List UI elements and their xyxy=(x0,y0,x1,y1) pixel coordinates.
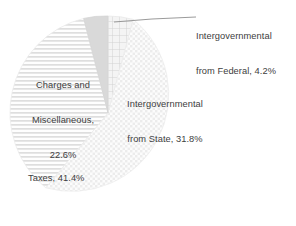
pie-label-state-line1: Intergovernmental xyxy=(118,99,212,111)
pie-label-taxes-line1: Taxes, 41.4% xyxy=(28,173,84,185)
pie-label-federal-line1: Intergovernmental xyxy=(196,31,276,43)
pie-label-state-line2: from State, 31.8% xyxy=(118,134,212,146)
pie-label-charges-line1: Charges and xyxy=(20,80,106,92)
pie-label-taxes: Taxes, 41.4% xyxy=(28,150,84,208)
pie-label-charges-line2: Miscellaneous, xyxy=(20,115,106,127)
pie-chart: Intergovernmental from Federal, 4.2% Int… xyxy=(0,0,296,226)
pie-label-intergovernmental-state: Intergovernmental from State, 31.8% xyxy=(118,76,212,169)
